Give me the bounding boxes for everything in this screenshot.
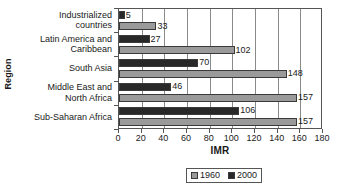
legend-label: 2000 (237, 171, 257, 180)
bar-group: 70148 (119, 57, 321, 81)
bar-row: 46 (119, 83, 321, 91)
category-label-text: Middle East andNorth Africa (47, 82, 112, 103)
bar-value-label: 5 (126, 11, 131, 20)
bar-value-label: 102 (236, 46, 251, 55)
plot-area: 533271027014846157106157 (118, 8, 322, 129)
bar-1960[interactable] (119, 94, 297, 102)
bar-value-label: 148 (288, 69, 303, 78)
bar-row: 157 (119, 118, 321, 126)
legend-swatch-icon (228, 172, 235, 179)
category-label-text: Sub-Saharan Africa (34, 112, 112, 123)
bar-value-label: 27 (151, 35, 161, 44)
bar-row: 70 (119, 59, 321, 67)
x-axis-tick-labels: 020406080100120140160180 (118, 133, 322, 145)
x-tick-label: 100 (224, 133, 239, 144)
bar-2000[interactable] (119, 59, 198, 67)
bar-row: 5 (119, 11, 321, 19)
x-tick-label: 40 (158, 133, 168, 144)
bar-group: 46157 (119, 80, 321, 104)
chart-legend: 19602000 (186, 168, 262, 183)
bar-group: 533 (119, 9, 321, 33)
bar-row: 33 (119, 22, 321, 30)
category-label-column: IndustrializedcountriesLatin America and… (14, 8, 115, 129)
bar-value-label: 46 (172, 82, 182, 91)
bar-row: 148 (119, 70, 321, 78)
bar-2000[interactable] (119, 11, 125, 19)
y-axis-title-text: Region (3, 58, 13, 89)
bar-value-label: 106 (240, 106, 255, 115)
category-label-text: Industrializedcountries (59, 10, 112, 31)
legend-item[interactable]: 2000 (228, 171, 257, 180)
bar-group: 106157 (119, 104, 321, 128)
bar-value-label: 70 (199, 58, 209, 67)
category-label-text: Latin America andCaribbean (40, 34, 112, 55)
bar-1960[interactable] (119, 22, 156, 30)
bar-row: 157 (119, 94, 321, 102)
x-tick-label: 160 (292, 133, 307, 144)
legend-label: 1960 (200, 171, 220, 180)
bar-2000[interactable] (119, 35, 150, 43)
category-label: Middle East andNorth Africa (14, 81, 115, 105)
bar-value-label: 157 (298, 93, 313, 102)
bar-2000[interactable] (119, 107, 239, 115)
legend-swatch-icon (191, 172, 198, 179)
x-tick-label: 0 (115, 133, 120, 144)
bar-value-label: 33 (157, 22, 167, 31)
bar-1960[interactable] (119, 70, 287, 78)
bar-value-label: 157 (298, 117, 313, 126)
x-tick-label: 180 (314, 133, 329, 144)
y-axis-title: Region (1, 22, 15, 126)
category-label: Sub-Saharan Africa (14, 105, 115, 129)
bar-2000[interactable] (119, 83, 171, 91)
bar-row: 102 (119, 46, 321, 54)
category-label: Industrializedcountries (14, 8, 115, 32)
category-label-text: South Asia (69, 63, 112, 74)
bar-row: 106 (119, 107, 321, 115)
bar-group: 27102 (119, 33, 321, 57)
bar-chart: Region IndustrializedcountriesLatin Amer… (0, 0, 339, 195)
x-axis-title: IMR (118, 145, 322, 156)
x-tick-label: 60 (181, 133, 191, 144)
category-label: Latin America andCaribbean (14, 32, 115, 56)
x-tick-label: 20 (136, 133, 146, 144)
bar-1960[interactable] (119, 46, 235, 54)
x-tick-label: 120 (246, 133, 261, 144)
bar-row: 27 (119, 35, 321, 43)
legend-item[interactable]: 1960 (191, 171, 220, 180)
x-tick-label: 140 (269, 133, 284, 144)
bars-layer: 533271027014846157106157 (119, 9, 321, 128)
bar-1960[interactable] (119, 118, 297, 126)
category-label: South Asia (14, 56, 115, 80)
x-tick-label: 80 (204, 133, 214, 144)
